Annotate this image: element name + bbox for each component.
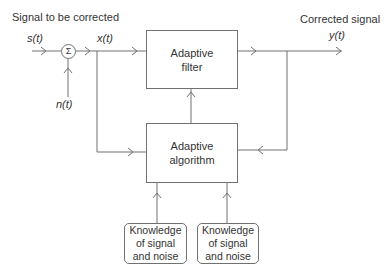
adaptive-algorithm-line2: algorithm: [169, 153, 214, 167]
noise-var-label: n(t): [56, 98, 73, 110]
knowledge-left-line3: and noise: [130, 250, 182, 263]
mixed-var-label: x(t): [97, 32, 113, 44]
adaptive-algorithm-box: Adaptive algorithm: [146, 123, 238, 183]
input-signal-title: Signal to be corrected: [12, 11, 119, 23]
adaptive-algorithm-line1: Adaptive: [169, 139, 214, 153]
adaptive-filter-box: Adaptive filter: [146, 30, 238, 89]
adaptive-filter-line2: filter: [171, 60, 214, 74]
knowledge-left-line1: Knowledge: [130, 224, 182, 237]
output-var-label: y(t): [329, 29, 345, 41]
knowledge-right-line1: Knowledge: [202, 224, 254, 237]
knowledge-box-right: Knowledge of signal and noise: [197, 223, 259, 264]
adaptive-filter-line1: Adaptive: [171, 46, 214, 60]
knowledge-right-line2: of signal: [202, 237, 254, 250]
knowledge-right-line3: and noise: [202, 250, 254, 263]
knowledge-left-line2: of signal: [130, 237, 182, 250]
knowledge-box-left: Knowledge of signal and noise: [124, 223, 187, 264]
summing-junction: Σ: [61, 44, 76, 59]
output-signal-title: Corrected signal: [300, 13, 380, 25]
input-var-label: s(t): [27, 32, 43, 44]
